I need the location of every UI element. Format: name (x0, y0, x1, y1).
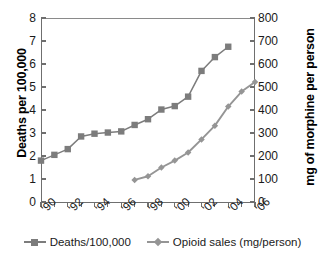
legend-entry[interactable]: Deaths/100,000 (24, 236, 131, 248)
data-point (91, 130, 97, 136)
data-point (225, 44, 231, 50)
chart-legend: Deaths/100,000Opioid sales (mg/person) (0, 236, 325, 248)
data-point (212, 54, 218, 60)
data-point (105, 129, 111, 135)
data-point (65, 146, 71, 152)
legend-label: Deaths/100,000 (50, 236, 131, 248)
data-point (172, 103, 178, 109)
legend-marker-square-icon (24, 238, 46, 247)
legend-marker-diamond-icon (147, 238, 169, 247)
legend-label: Opioid sales (mg/person) (173, 236, 301, 248)
data-point (185, 93, 191, 99)
data-point (158, 106, 164, 112)
dual-axis-line-chart: Deaths per 100,000 mg of morphine per pe… (0, 0, 325, 256)
data-point (118, 128, 124, 134)
data-point (198, 68, 204, 74)
legend-entry[interactable]: Opioid sales (mg/person) (147, 236, 301, 248)
series-line (41, 47, 228, 161)
data-point (51, 152, 57, 158)
data-point (145, 116, 151, 122)
data-point (78, 133, 84, 139)
data-point (38, 157, 44, 163)
series-deaths (38, 44, 232, 164)
series-layer (0, 0, 325, 256)
series-line (135, 82, 255, 180)
series-opioid-sales (131, 79, 258, 183)
data-point (131, 122, 137, 128)
data-point (131, 177, 138, 184)
